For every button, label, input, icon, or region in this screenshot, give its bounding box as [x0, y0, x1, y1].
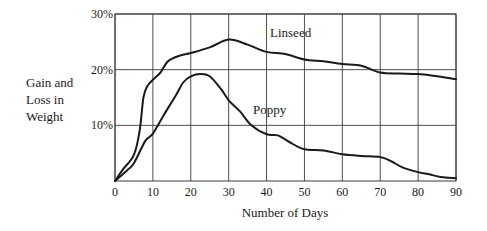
y-tick-labels: 10%20%30%	[91, 7, 113, 132]
x-tick-label: 20	[185, 185, 197, 199]
x-tick-label: 70	[374, 185, 386, 199]
x-tick-label: 60	[336, 185, 348, 199]
series-label-linseed: Linseed	[270, 25, 312, 40]
x-tick-label: 0	[112, 185, 118, 199]
x-tick-labels: 0102030405060708090	[112, 185, 462, 199]
x-axis-label: Number of Days	[242, 205, 329, 220]
series-line-poppy	[115, 74, 456, 181]
x-tick-label: 30	[223, 185, 235, 199]
y-tick-label: 10%	[91, 118, 113, 132]
line-chart: 0102030405060708090 10%20%30% LinseedPop…	[0, 0, 487, 231]
series-labels: LinseedPoppy	[253, 25, 312, 117]
x-tick-label: 50	[298, 185, 310, 199]
x-tick-label: 40	[261, 185, 273, 199]
x-tick-label: 80	[412, 185, 424, 199]
x-tick-label: 90	[450, 185, 462, 199]
x-tick-label: 10	[147, 185, 159, 199]
y-tick-label: 30%	[91, 7, 113, 21]
series-label-poppy: Poppy	[253, 102, 287, 117]
y-tick-label: 20%	[91, 63, 113, 77]
